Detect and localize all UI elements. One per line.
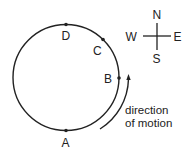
point-b-label: B: [104, 72, 112, 86]
point-a-label: A: [62, 136, 70, 150]
orbit-diagram: D C B A direction of motion N S W E: [0, 0, 192, 155]
compass-rose: N S W E: [126, 8, 182, 66]
point-c-dot: [101, 38, 105, 42]
point-a-dot: [64, 129, 68, 133]
point-d-label: D: [62, 29, 71, 43]
motion-label-line2: of motion: [125, 117, 172, 129]
diagram-stage: D C B A direction of motion N S W E: [0, 0, 192, 155]
point-c-label: C: [93, 44, 102, 58]
point-d-dot: [64, 23, 68, 27]
compass-north-label: N: [153, 8, 162, 22]
compass-south-label: S: [153, 52, 161, 66]
point-b-dot: [117, 76, 121, 80]
arrowhead-icon: [126, 74, 130, 80]
compass-west-label: W: [126, 30, 138, 44]
motion-label-line1: direction: [125, 104, 168, 116]
compass-east-label: E: [174, 30, 182, 44]
